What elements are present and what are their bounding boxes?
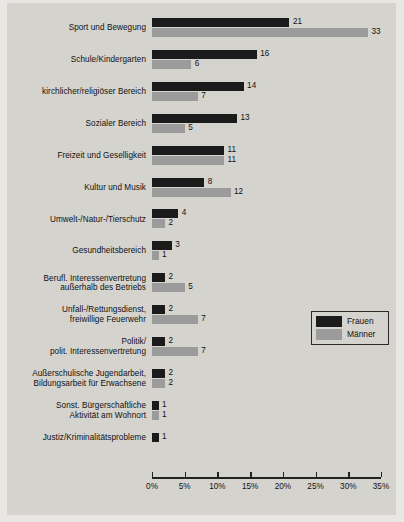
category-label: Umwelt-/Natur-/Tierschutz (0, 215, 146, 225)
bar-value-label: 14 (247, 81, 256, 91)
x-axis-tick (250, 472, 251, 477)
x-axis-tick-label: 20% (268, 482, 298, 491)
x-axis-tick-label: 0% (137, 482, 167, 491)
bar-value-label: 13 (241, 113, 250, 123)
bar-rect (152, 411, 159, 420)
chart-row: Justiz/Kriminalitätsprobleme1 (0, 433, 404, 465)
category-label: Sport und Bewegung (0, 23, 146, 33)
bar-frauen: 1 (152, 433, 189, 442)
category-label: Freizeit und Geselligkeit (0, 151, 146, 161)
bar-maenner: 7 (152, 347, 228, 356)
bar-rect (152, 124, 185, 133)
bar-frauen: 16 (152, 50, 287, 59)
row-bars: 147 (152, 82, 404, 114)
bar-rect (152, 379, 165, 388)
x-axis-tick (348, 472, 349, 477)
bar-frauen: 13 (152, 114, 267, 123)
bar-value-label: 1 (162, 432, 167, 442)
bar-rect (152, 92, 198, 101)
chart-row: Außerschulische Jugendarbeit,Bildungsarb… (0, 369, 404, 401)
bar-value-label: 1 (162, 250, 167, 260)
row-bars: 166 (152, 50, 404, 82)
bar-rect (152, 273, 165, 282)
category-label: Schule/Kindergarten (0, 55, 146, 65)
bar-rect (152, 60, 191, 69)
category-label-line: polit. Interessenvertretung (0, 347, 146, 357)
category-label-line: kirchlicher/religiöser Bereich (0, 87, 146, 97)
category-label: Sonst. BürgerschaftlicheAktivität am Woh… (0, 401, 146, 420)
bar-value-label: 1 (162, 410, 167, 420)
x-axis-tick (152, 472, 153, 477)
bar-maenner: 5 (152, 283, 215, 292)
chart-container: Sport und Bewegung2133Schule/Kindergarte… (0, 0, 404, 522)
chart-row: Sozialer Bereich135 (0, 114, 404, 146)
bar-frauen: 11 (152, 146, 254, 155)
x-axis-tick (381, 472, 382, 477)
bar-rect (152, 305, 165, 314)
legend-item-maenner: Männer (316, 328, 386, 341)
chart-rows: Sport und Bewegung2133Schule/Kindergarte… (0, 0, 404, 470)
category-label-line: Außerschulische Jugendarbeit, (0, 369, 146, 379)
bar-rect (152, 401, 159, 410)
row-bars: 1 (152, 433, 404, 465)
x-axis-tick-label: 35% (366, 482, 396, 491)
bar-rect (152, 146, 224, 155)
bar-maenner: 7 (152, 315, 228, 324)
legend-item-frauen: Frauen (316, 315, 386, 328)
chart-row: Gesundheitsbereich31 (0, 241, 404, 273)
row-bars: 11 (152, 401, 404, 433)
bar-rect (152, 283, 185, 292)
category-label-line: Justiz/Kriminalitätsprobleme (0, 433, 146, 443)
bar-value-label: 11 (227, 145, 236, 155)
bar-maenner: 11 (152, 156, 254, 165)
category-label-line: Aktivität am Wohnort (0, 411, 146, 421)
bar-frauen: 3 (152, 241, 202, 250)
bar-frauen: 2 (152, 369, 195, 378)
category-label: Politik/polit. Interessenvertretung (0, 337, 146, 356)
chart-row: Berufl. Interessenvertretungaußerhalb de… (0, 273, 404, 305)
x-axis-tick (185, 472, 186, 477)
bar-frauen: 1 (152, 401, 189, 410)
bar-value-label: 8 (208, 177, 213, 187)
bar-frauen: 2 (152, 337, 195, 346)
bar-maenner: 33 (152, 28, 398, 37)
category-label-line: Kultur und Musik (0, 183, 146, 193)
bar-frauen: 21 (152, 18, 319, 27)
bar-value-label: 21 (293, 17, 302, 27)
bar-rect (152, 433, 159, 442)
chart-row: Schule/Kindergarten166 (0, 50, 404, 82)
category-label-line: Sport und Bewegung (0, 23, 146, 33)
x-axis-tick-label: 10% (202, 482, 232, 491)
bar-rect (152, 209, 178, 218)
bar-rect (152, 347, 198, 356)
bar-rect (152, 337, 165, 346)
bar-rect (152, 18, 289, 27)
x-axis-tick (283, 472, 284, 477)
bar-rect (152, 178, 204, 187)
category-label: Außerschulische Jugendarbeit,Bildungsarb… (0, 369, 146, 388)
bar-value-label: 7 (201, 91, 206, 101)
chart-row: Freizeit und Geselligkeit1111 (0, 146, 404, 178)
bar-maenner: 7 (152, 92, 228, 101)
bar-frauen: 2 (152, 273, 195, 282)
category-label-line: außerhalb des Betriebs (0, 283, 146, 293)
row-bars: 42 (152, 209, 404, 241)
row-bars: 135 (152, 114, 404, 146)
category-label-line: Politik/ (0, 337, 146, 347)
chart-row: Kultur und Musik812 (0, 178, 404, 210)
chart-row: kirchlicher/religiöser Bereich147 (0, 82, 404, 114)
bar-rect (152, 156, 224, 165)
category-label-line: Bildungsarbeit für Erwachsene (0, 379, 146, 389)
category-label: Justiz/Kriminalitätsprobleme (0, 433, 146, 443)
legend-label-frauen: Frauen (347, 316, 374, 327)
bar-rect (152, 251, 159, 260)
bar-rect (152, 28, 368, 37)
row-bars: 31 (152, 241, 404, 273)
category-label: Berufl. Interessenvertretungaußerhalb de… (0, 274, 146, 293)
bar-value-label: 2 (169, 304, 174, 314)
bar-value-label: 6 (195, 59, 200, 69)
bar-rect (152, 114, 237, 123)
bar-value-label: 7 (201, 346, 206, 356)
legend-label-maenner: Männer (347, 329, 375, 340)
x-axis-tick (316, 472, 317, 477)
